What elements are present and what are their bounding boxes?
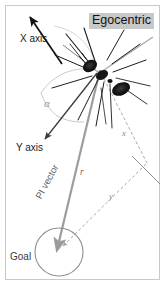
x-axis-label: X axis <box>20 34 47 44</box>
r-magnitude-label: r <box>80 168 84 178</box>
y-axis-arrow <box>45 73 97 139</box>
ant-silhouette <box>52 28 150 128</box>
y-axis-label: Y axis <box>16 143 43 153</box>
right-angle-tick <box>132 156 160 184</box>
egocentric-diagram-figure: Egocentric X axis Y axis Goal α r x y PI… <box>0 0 167 287</box>
x-component-label: x <box>122 129 126 138</box>
alpha-angle-label: α <box>44 98 50 109</box>
y-component-label: y <box>109 192 113 201</box>
goal-circle <box>35 228 83 276</box>
goal-label: Goal <box>10 252 31 262</box>
panel-title: Egocentric <box>89 13 154 29</box>
